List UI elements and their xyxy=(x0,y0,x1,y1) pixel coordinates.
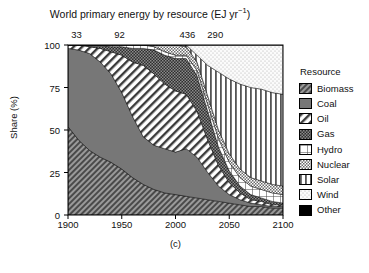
y-tick-label-25: 25 xyxy=(32,167,60,178)
legend-swatch-oil xyxy=(299,113,312,124)
legend-swatch-gas xyxy=(299,129,312,140)
chart-title-exponent: −1 xyxy=(238,6,247,15)
chart-title: World primary energy by resource (EJ yr−… xyxy=(0,6,300,20)
chart-title-paren: ) xyxy=(247,8,251,20)
legend-swatch-other xyxy=(299,205,312,216)
legend-title: Resource xyxy=(299,66,369,77)
legend-label-nuclear: Nuclear xyxy=(317,160,350,170)
x-tick-label-2050: 2050 xyxy=(219,219,240,230)
y-tick-label-50: 50 xyxy=(32,125,60,136)
legend-swatch-hydro xyxy=(299,144,312,155)
legend-label-hydro: Hydro xyxy=(317,145,342,155)
y-axis-label: Share (%) xyxy=(8,83,19,153)
legend-label-wind: Wind xyxy=(317,190,339,200)
y-tick-label-0: 0 xyxy=(32,210,60,221)
y-tick-label-100: 100 xyxy=(32,40,60,51)
legend-swatch-biomass xyxy=(299,83,312,94)
top-annotation-33: 33 xyxy=(71,29,82,40)
legend-label-oil: Oil xyxy=(317,114,329,124)
top-annotation-436: 436 xyxy=(179,29,195,40)
top-annotation-92: 92 xyxy=(114,29,125,40)
chart-title-text: World primary energy by resource (EJ yr xyxy=(50,8,238,20)
legend: Resource Biomass Coal Oil Gas Hydro Nucl… xyxy=(299,66,369,218)
legend-label-biomass: Biomass xyxy=(317,84,353,94)
y-tick-label-75: 75 xyxy=(32,82,60,93)
legend-swatch-coal xyxy=(299,98,312,109)
energy-share-figure: World primary energy by resource (EJ yr−… xyxy=(0,0,369,273)
x-tick-label-2000: 2000 xyxy=(165,219,186,230)
x-tick-label-2100: 2100 xyxy=(272,219,293,230)
legend-label-other: Other xyxy=(317,205,341,215)
legend-item-oil[interactable]: Oil xyxy=(299,111,369,126)
legend-item-hydro[interactable]: Hydro xyxy=(299,142,369,157)
legend-item-biomass[interactable]: Biomass xyxy=(299,81,369,96)
legend-item-solar[interactable]: Solar xyxy=(299,172,369,187)
legend-swatch-nuclear xyxy=(299,159,312,170)
x-tick-label-1950: 1950 xyxy=(111,219,132,230)
legend-swatch-wind xyxy=(299,189,312,200)
legend-item-gas[interactable]: Gas xyxy=(299,127,369,142)
legend-label-gas: Gas xyxy=(317,129,334,139)
legend-label-solar: Solar xyxy=(317,175,339,185)
legend-item-coal[interactable]: Coal xyxy=(299,96,369,111)
legend-swatch-solar xyxy=(299,174,312,185)
legend-item-wind[interactable]: Wind xyxy=(299,187,369,202)
figure-caption: (c) xyxy=(68,238,283,249)
legend-item-nuclear[interactable]: Nuclear xyxy=(299,157,369,172)
legend-label-coal: Coal xyxy=(317,99,337,109)
plot-area xyxy=(68,45,283,215)
x-tick-label-1900: 1900 xyxy=(57,219,78,230)
legend-item-other[interactable]: Other xyxy=(299,203,369,218)
top-annotation-290: 290 xyxy=(207,29,223,40)
